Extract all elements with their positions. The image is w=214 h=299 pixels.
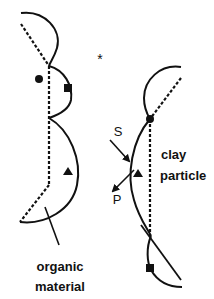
clay-main-curve	[131, 119, 151, 236]
clay-particle-structure: S P clay particle	[110, 67, 206, 287]
material-label: material	[35, 279, 85, 294]
clay-top-arc	[144, 67, 181, 119]
asterisk-symbol: *	[97, 51, 103, 67]
clay-triangle-marker	[133, 169, 143, 177]
s-arrow	[110, 140, 129, 161]
clay-lower-curve	[148, 236, 182, 287]
organic-angled-dashed	[20, 185, 49, 222]
filled-square-marker	[64, 84, 72, 92]
filled-circle-marker	[35, 75, 43, 83]
organic-material-structure: organic material	[20, 13, 85, 294]
organic-top-dashed-diameter	[21, 24, 49, 66]
filled-triangle-marker	[63, 167, 73, 175]
p-label: P	[113, 192, 122, 207]
organic-clay-diagram: organic material * S P clay particle	[0, 0, 214, 299]
clay-top-dashed-diameter	[150, 78, 181, 119]
clay-label: clay	[161, 147, 187, 162]
clay-square-marker	[146, 264, 154, 272]
s-label: S	[114, 124, 123, 139]
organic-top-arc	[21, 13, 58, 66]
organic-label: organic	[37, 259, 84, 274]
particle-label: particle	[160, 168, 206, 183]
